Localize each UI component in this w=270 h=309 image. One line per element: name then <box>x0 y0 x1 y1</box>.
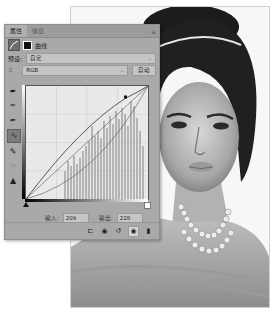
curve-graph[interactable] <box>25 85 149 200</box>
preset-dropdown[interactable]: 自定 ⌄ <box>26 53 156 64</box>
input-label: 输入: <box>45 214 59 222</box>
clipping-warning-icon[interactable]: ▲ <box>7 174 19 186</box>
histogram <box>64 101 144 199</box>
view-previous-state-icon[interactable]: ◉ <box>100 227 109 236</box>
curve-tools: ✒ ✒ ✒ ∿ ✎ ≈ ▲ <box>7 85 21 189</box>
adjustment-label: 曲线 <box>35 41 47 50</box>
panel-bottom-bar: ⊏ ◉ ↺ ◉ ▮ <box>5 222 159 239</box>
black-point-slider[interactable] <box>23 202 29 207</box>
layer-mask-icon[interactable] <box>23 41 32 50</box>
pencil-draw-icon[interactable]: ✎ <box>7 145 19 157</box>
gray-point-eyedropper-icon[interactable]: ✒ <box>7 100 19 112</box>
input-gradient-bar <box>25 199 148 202</box>
curve-control-point <box>124 96 127 99</box>
toggle-visibility-icon[interactable]: ◉ <box>128 226 139 237</box>
adjustment-header: 曲线 <box>5 38 159 52</box>
properties-panel: 属性 信息 ≡ 曲线 预设: 自定 ⌄ ☝ RGB ⌄ 自动 ✒ ✒ ✒ ∿ ✎… <box>4 24 160 240</box>
auto-button[interactable]: 自动 <box>132 65 156 76</box>
preset-value: 自定 <box>30 55 42 61</box>
chevron-down-icon: ⌄ <box>120 66 124 75</box>
preset-row: 预设: 自定 ⌄ <box>5 52 159 64</box>
on-image-adjust-icon[interactable]: ☝ <box>8 66 12 74</box>
curve-plot <box>26 86 148 199</box>
chevron-down-icon: ⌄ <box>148 54 152 63</box>
output-label: 输出: <box>99 214 113 222</box>
clip-to-layer-icon[interactable]: ⊏ <box>86 227 95 236</box>
panel-menu-icon[interactable]: ≡ <box>151 28 159 35</box>
channel-row: ☝ RGB ⌄ 自动 <box>5 64 159 76</box>
channel-value: RGB <box>26 67 38 73</box>
edit-points-curve-icon[interactable]: ∿ <box>7 129 21 143</box>
smooth-curve-icon: ≈ <box>7 160 19 172</box>
channel-dropdown[interactable]: RGB ⌄ <box>22 65 128 76</box>
white-point-slider[interactable] <box>144 202 151 209</box>
reset-icon[interactable]: ↺ <box>114 227 123 236</box>
panel-tabs: 属性 信息 ≡ <box>5 25 159 38</box>
preset-label: 预设: <box>8 54 22 63</box>
black-point-eyedropper-icon[interactable]: ✒ <box>7 85 19 97</box>
tab-properties[interactable]: 属性 <box>5 25 27 37</box>
white-point-eyedropper-icon[interactable]: ✒ <box>7 114 19 126</box>
tab-info[interactable]: 信息 <box>27 25 49 37</box>
curves-adjustment-icon[interactable] <box>8 39 20 51</box>
delete-icon[interactable]: ▮ <box>144 227 153 236</box>
